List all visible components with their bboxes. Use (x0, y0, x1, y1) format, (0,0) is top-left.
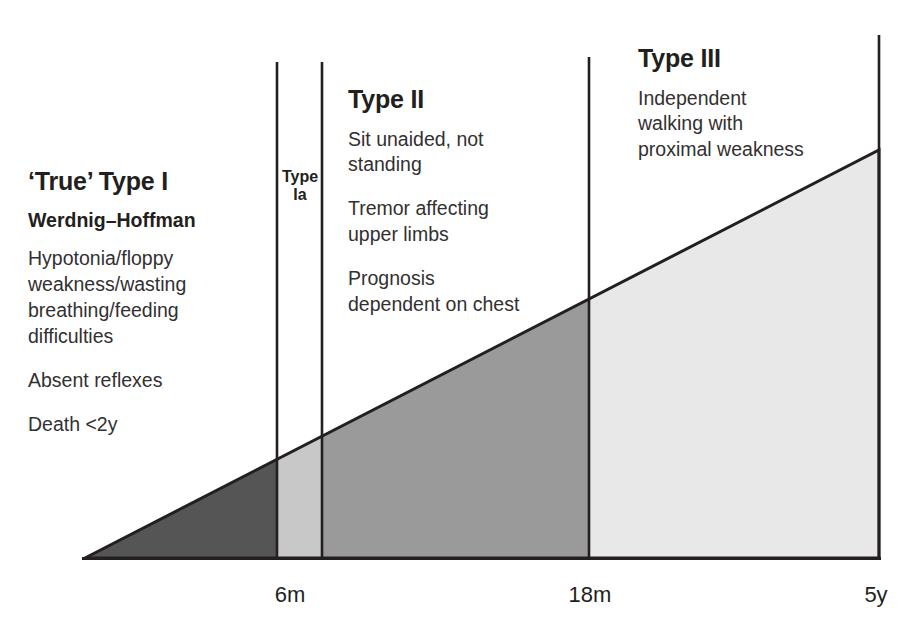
panel-type-3-mobility: Independent walking with proximal weakne… (638, 86, 888, 164)
axis-tick-label-6m: 6m (258, 582, 322, 608)
panel-type-2: Type II Sit unaided, not standing Tremor… (348, 86, 580, 318)
panel-type-3: Type III Independent walking with proxim… (638, 45, 888, 163)
panel-type-1-symptoms: Hypotonia/floppy weakness/wasting breath… (28, 246, 266, 350)
band-type-3 (589, 140, 884, 565)
panel-type-2-tremor: Tremor affecting upper limbs (348, 196, 580, 248)
axis-tick-label-5y: 5y (848, 582, 904, 608)
panel-type-1-reflexes: Absent reflexes (28, 368, 266, 394)
panel-type-1-title: ‘True’ Type I (28, 168, 266, 196)
panel-type-1a: Type Ia (265, 168, 335, 204)
panel-type-1-prognosis: Death <2y (28, 412, 266, 438)
panel-type-1-subtitle: Werdnig–Hoffman (28, 209, 266, 231)
panel-type-2-motor: Sit unaided, not standing (348, 127, 580, 179)
axis-tick-label-18m: 18m (555, 582, 625, 608)
panel-type-3-title: Type III (638, 45, 888, 73)
panel-type-2-title: Type II (348, 86, 580, 114)
panel-type-1a-title: Type Ia (265, 168, 335, 204)
panel-type-2-prognosis: Prognosis dependent on chest (348, 266, 580, 318)
diagram-canvas: ‘True’ Type I Werdnig–Hoffman Hypotonia/… (0, 0, 920, 635)
panel-type-1: ‘True’ Type I Werdnig–Hoffman Hypotonia/… (28, 168, 266, 437)
